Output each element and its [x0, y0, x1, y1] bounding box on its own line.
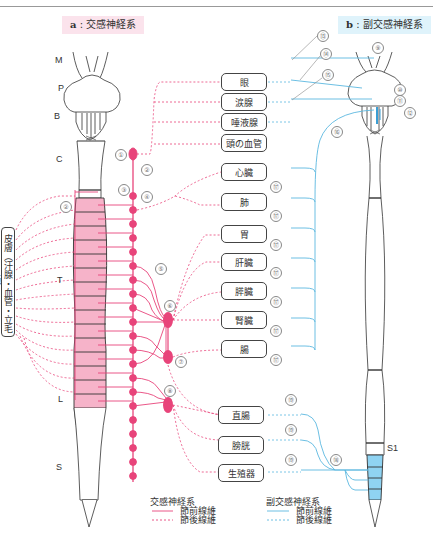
marker-17-lung: ⑰	[270, 210, 282, 222]
marker-8: ⑧	[164, 385, 176, 397]
spinal-cord-left	[64, 52, 120, 198]
organ-eye: 眼	[221, 73, 267, 91]
marker-5: ⑤	[155, 263, 167, 275]
marker-2-left: ②	[60, 201, 72, 213]
marker-6: ⑥	[164, 300, 176, 312]
marker-17-intestine: ⑰	[270, 354, 282, 366]
organ-lung: 肺	[221, 193, 267, 211]
marker-17-heart: ⑰	[270, 181, 282, 193]
marker-17-liver: ⑰	[270, 267, 282, 279]
sacral-segments-right	[367, 455, 383, 527]
marker-15: ⑮	[322, 69, 334, 81]
marker-7: ⑦	[175, 356, 187, 368]
organ-bladder: 膀胱	[218, 436, 264, 454]
brainstem-nuclei	[377, 107, 380, 124]
organ-genitals: 生殖器	[218, 464, 264, 482]
marker-19-rectum: ⑲	[285, 394, 297, 406]
label-s1: S1	[387, 443, 398, 453]
organ-heart: 心臓	[221, 163, 267, 181]
marker-9: ⑨	[372, 42, 384, 54]
label-sacral: S	[56, 462, 62, 472]
marker-19-genitals: ⑲	[285, 454, 297, 466]
sympathetic-chain	[129, 148, 137, 482]
label-lumbar: L	[58, 394, 63, 404]
legend-sympathetic-post: 節後線維	[180, 516, 225, 525]
label-thoracic: T	[57, 275, 63, 285]
marker-19-bladder: ⑲	[285, 424, 297, 436]
panel-a-title: a : 交感神経系	[62, 16, 144, 34]
organ-salivary-gland: 唾液腺	[221, 113, 267, 131]
marker-17-pancreas: ⑰	[270, 296, 282, 308]
marker-11: ⑪	[394, 95, 406, 107]
marker-17-kidney: ⑰	[270, 325, 282, 337]
marker-3: ③	[118, 184, 130, 196]
sympathetic-postganglionic-skin	[16, 196, 75, 392]
label-pons: P	[58, 83, 64, 93]
marker-2: ②	[141, 164, 153, 176]
organ-pancreas: 膵臓	[221, 282, 267, 300]
marker-14: ⑭	[320, 48, 332, 60]
marker-12: ⑫	[404, 107, 416, 119]
autonomic-diagram	[0, 0, 433, 548]
marker-17-stomach: ⑰	[270, 239, 282, 251]
marker-13: ⑬	[317, 30, 329, 42]
organ-rectum: 直腸	[218, 406, 264, 424]
legend-parasympathetic-post: 節後線維	[296, 516, 350, 525]
label-midbrain: M	[55, 55, 63, 65]
marker-18: ⑱	[330, 454, 342, 466]
legend-parasympathetic: 副交感神経系 節前線維 節後線維	[266, 497, 320, 525]
organ-kidney: 腎臓	[221, 311, 267, 329]
legend-sympathetic: 交感神経系 節前線維 節後線維	[150, 497, 195, 525]
panel-b-title: b : 副交感神経系	[338, 16, 431, 34]
parasympathetic-preganglionic	[291, 58, 374, 490]
organ-stomach: 胃	[221, 225, 267, 243]
organ-intestine: 腸	[221, 340, 267, 358]
label-cervical: C	[56, 154, 63, 164]
marker-1: ①	[115, 149, 127, 161]
skin-box: 皮膚（汗腺・血管・立毛筋）	[1, 227, 15, 337]
sympathetic-postganglionic-organs	[137, 82, 221, 472]
marker-4: ④	[141, 191, 153, 203]
organ-liver: 肝臓	[221, 253, 267, 271]
organ-lacrimal-gland: 涙腺	[221, 93, 267, 111]
label-medulla: B	[54, 111, 60, 121]
organ-head-vessels: 頭の血管	[221, 134, 267, 152]
marker-16: ⑯	[331, 126, 343, 138]
